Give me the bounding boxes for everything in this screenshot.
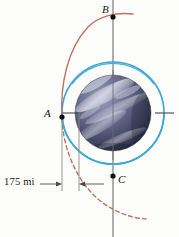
dimension-label: 175 mi [4,176,35,187]
figure-canvas [0,0,179,237]
point-marker-c [110,173,115,178]
point-label-b: B [102,4,109,15]
orbital-mechanics-figure: B A C 175 mi [0,0,179,237]
dimension-arrow-left [56,181,62,186]
point-marker-a [59,114,64,119]
dimension-arrow-right [79,181,85,186]
point-marker-b [110,14,115,19]
point-label-a: A [44,108,51,119]
point-label-c: C [118,174,125,185]
